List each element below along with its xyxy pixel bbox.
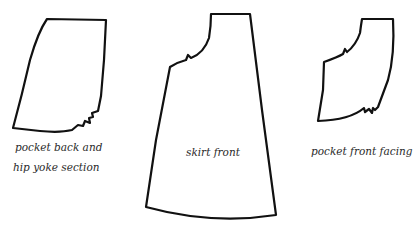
label-pocket-front-facing: pocket front facing [311,141,412,161]
pocket-front-facing-outline [318,19,393,121]
pattern-pieces-canvas [0,0,414,227]
label-line: hip yoke section [13,157,102,177]
label-pocket-back-hip-yoke: pocket back and hip yoke section [13,137,102,177]
label-line: pocket front facing [311,145,412,157]
label-line: skirt front [186,146,240,158]
skirt-front-outline [146,14,276,219]
pocket-back-outline [13,19,106,132]
label-skirt-front: skirt front [186,142,240,162]
label-line: pocket back and [13,137,102,157]
